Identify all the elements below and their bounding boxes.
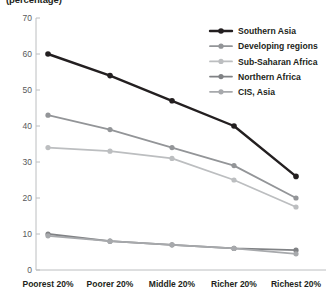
line-chart-plot: 706050403020100 Poorest 20%Poorer 20%Mid… (0, 0, 331, 300)
data-point (231, 163, 236, 168)
legend-item-label: Sub-Saharan Africa (238, 57, 318, 67)
data-point (231, 177, 236, 182)
x-axis-tick-label: Middle 20% (149, 279, 196, 289)
data-point (169, 98, 175, 104)
legend-item-label: CIS, Asia (238, 87, 275, 97)
y-axis-tick-label: 10 (23, 229, 33, 239)
x-axis-group: Poorest 20%Poorer 20%Middle 20%Richer 20… (22, 270, 326, 289)
legend-item-label: Developing regions (238, 41, 318, 51)
data-point (293, 195, 298, 200)
data-point (107, 73, 113, 79)
legend-item-label: Northern Africa (238, 72, 301, 82)
series-line (48, 234, 296, 250)
data-point (107, 149, 112, 154)
legend-swatch-marker (218, 59, 223, 64)
data-point (293, 251, 298, 256)
legend-swatch-marker (218, 89, 223, 94)
y-axis-tick-label: 60 (23, 49, 33, 59)
data-point (293, 174, 299, 180)
legend-group: Southern AsiaDeveloping regionsSub-Sahar… (210, 26, 318, 97)
y-axis-tick-label: 20 (23, 193, 33, 203)
data-point (107, 239, 112, 244)
y-axis-tick-label: 70 (23, 13, 33, 23)
y-axis-tick-label: 50 (23, 85, 33, 95)
data-point (231, 246, 236, 251)
legend-item[interactable]: Developing regions (210, 41, 318, 51)
y-axis-tick-label: 30 (23, 157, 33, 167)
data-point (169, 242, 174, 247)
legend-swatch-marker (218, 44, 223, 49)
legend-swatch-marker (218, 74, 223, 79)
y-axis-tick-label: 0 (27, 265, 32, 275)
y-axis-group: 706050403020100 (23, 13, 40, 275)
series-group (45, 51, 299, 256)
data-point (231, 123, 237, 129)
data-point (45, 113, 50, 118)
y-axis-tick-label: 40 (23, 121, 33, 131)
legend-item[interactable]: Northern Africa (210, 72, 301, 82)
x-axis-tick-label: Poorest 20% (22, 279, 73, 289)
legend-item[interactable]: CIS, Asia (210, 87, 275, 97)
x-axis-tick-label: Richer 20% (211, 279, 257, 289)
legend-item[interactable]: Sub-Saharan Africa (210, 57, 318, 67)
data-series (45, 233, 298, 256)
data-point (45, 145, 50, 150)
data-point (107, 127, 112, 132)
legend-swatch-marker (218, 28, 224, 34)
data-series (45, 145, 298, 210)
x-axis-tick-label: Richest 20% (271, 279, 322, 289)
legend-item-label: Southern Asia (238, 26, 296, 36)
data-point (45, 233, 50, 238)
data-point (169, 156, 174, 161)
data-point (169, 145, 174, 150)
data-point (293, 204, 298, 209)
legend-item[interactable]: Southern Asia (210, 26, 296, 36)
data-series (45, 231, 298, 252)
chart-container: (percentage) 706050403020100 Poorest 20%… (0, 0, 331, 300)
data-point (45, 51, 51, 57)
x-axis-tick-label: Poorer 20% (87, 279, 134, 289)
